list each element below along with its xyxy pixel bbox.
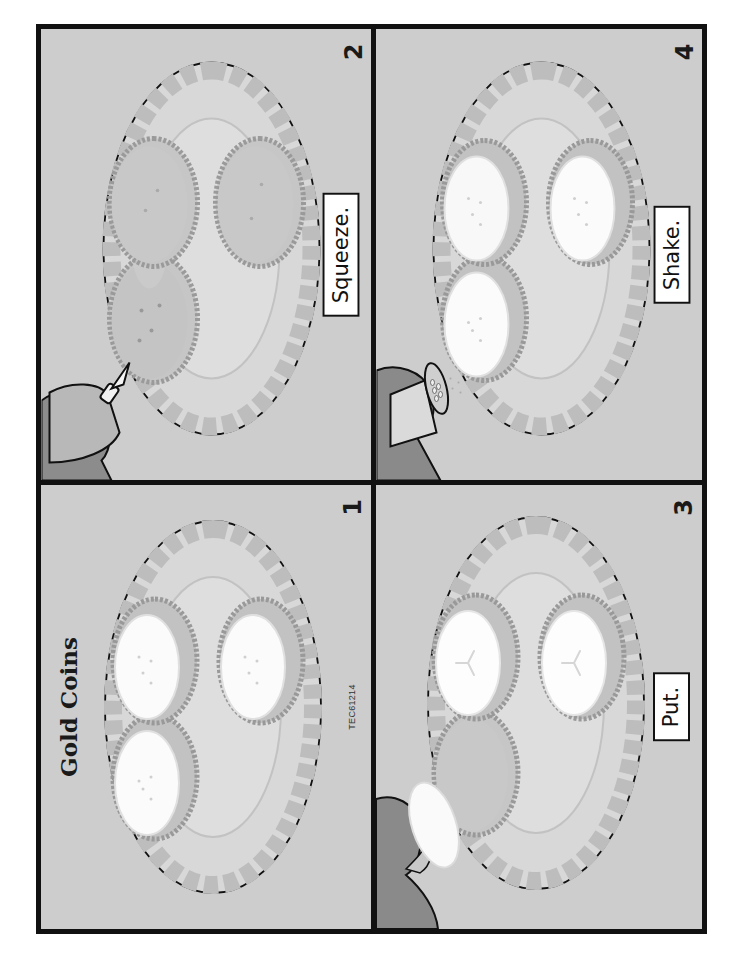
worksheet-title: Gold Coins [55, 637, 82, 777]
step-number: 3 [672, 499, 696, 516]
panel-step-1-content: Gold Coins TEC61214 1 [41, 485, 371, 929]
gold-coins-scene-illustration [41, 485, 371, 929]
cracker-with-cucumber-icon [113, 715, 197, 839]
worksheet-frame: Squeeze. 2 [36, 24, 707, 934]
panel-step-2: Squeeze. 2 [41, 29, 371, 480]
cracker-with-cucumber-icon [113, 599, 197, 723]
caption-label: Shake. [653, 205, 690, 304]
step-number: 1 [341, 499, 365, 516]
panel-step-3-content: Put. 3 [376, 485, 702, 929]
cracker-with-cucumber-icon [219, 599, 303, 723]
step-number: 2 [341, 43, 365, 60]
cracker-with-cucumber-icon [434, 595, 518, 719]
panel-step-4: Shake. 4 [376, 29, 702, 480]
panel-step-3: Put. 3 [376, 485, 702, 929]
squeeze-scene-illustration [41, 29, 371, 480]
caption-label: Put. [653, 673, 690, 742]
squeeze-bottle-icon [49, 362, 129, 462]
step-number: 4 [672, 43, 696, 60]
cracker-with-cucumber-icon [442, 140, 526, 264]
cracker-with-cucumber-icon [540, 595, 624, 719]
product-code: TEC61214 [347, 684, 357, 729]
panel-step-2-content: Squeeze. 2 [41, 29, 371, 480]
cracker-with-cucumber-icon [548, 140, 632, 264]
cracker-with-cucumber-icon [442, 256, 526, 380]
caption-label: Squeeze. [322, 192, 359, 316]
panel-step-4-content: Shake. 4 [376, 29, 702, 480]
panel-step-1: Gold Coins TEC61214 1 [41, 485, 371, 929]
